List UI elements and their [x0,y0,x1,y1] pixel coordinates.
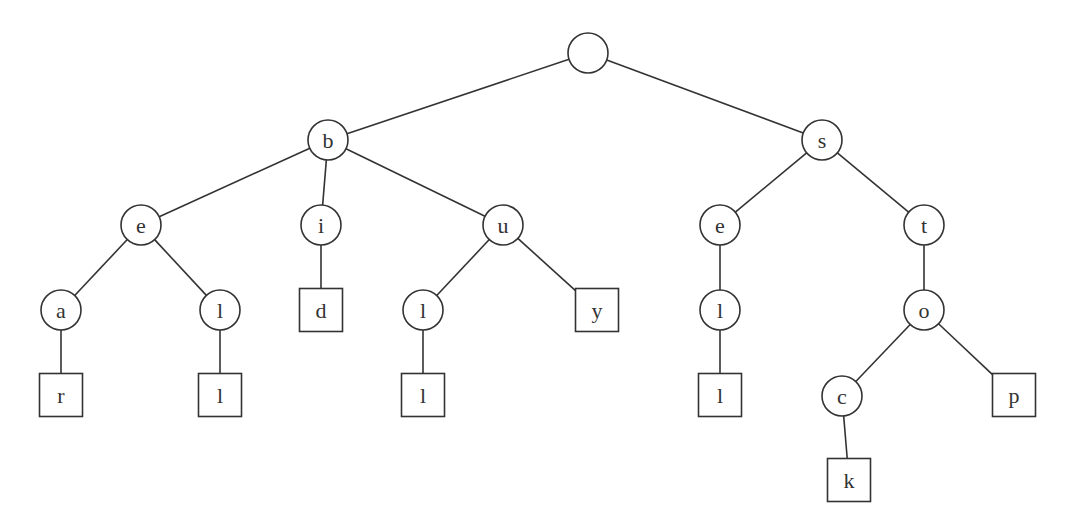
trie-node-be-a: a [41,290,81,330]
trie-node-bu-l: l [403,290,443,330]
trie-node-sto-c: c [822,376,862,416]
trie-diagram: bseiuetaldlylorlllcpk [0,0,1068,523]
trie-node-s: s [802,120,842,160]
trie-node-b-u: u [483,205,523,245]
trie-node-s-e: e [700,205,740,245]
edge-b-u-to-bu-l [437,240,490,296]
node-label: c [837,384,847,409]
trie-node-be-l: l [200,290,240,330]
node-label: l [217,298,223,323]
node-label: l [717,383,723,408]
edge-root-to-b [347,59,569,133]
leaf-node-bel-l: l [199,374,242,417]
node-label: r [57,383,65,408]
node-label: t [921,213,927,238]
node-label: k [844,468,855,493]
trie-node-s-t: t [904,205,944,245]
node-label: l [717,298,723,323]
leaf-node-sto-p: p [993,374,1036,417]
circle-node-shape [568,33,608,73]
leaf-node-bi-d: d [300,289,343,332]
edge-sto-c-to-stoc-k [844,416,848,459]
node-label: s [818,128,827,153]
node-label: d [316,298,327,323]
trie-node-b-i: i [301,205,341,245]
trie-node-st-o: o [904,290,944,330]
node-label: y [592,298,603,323]
node-label: a [56,298,66,323]
edge-b-to-b-u [346,149,485,217]
node-label: e [136,213,146,238]
node-label: p [1009,383,1020,408]
leaf-node-sel-l: l [699,374,742,417]
node-label: o [919,298,930,323]
edge-s-to-s-e [735,153,806,212]
edge-s-to-s-t [837,153,908,212]
edge-st-o-to-sto-c [856,324,910,381]
edge-b-u-to-bu-y [518,238,576,290]
node-label: e [715,213,725,238]
node-label: b [323,128,334,153]
node-label: l [420,383,426,408]
edge-b-e-to-be-a [75,240,128,296]
edge-b-to-b-e [159,148,310,216]
trie-node-se-l: l [700,290,740,330]
leaf-node-bu-y: y [576,289,619,332]
leaf-node-bea-r: r [40,374,83,417]
trie-node-b: b [308,120,348,160]
leaf-node-stoc-k: k [828,459,871,502]
edge-b-e-to-be-l [155,240,207,296]
nodes-layer: bseiuetaldlylorlllcpk [40,33,1036,502]
node-label: u [498,213,509,238]
node-label: i [318,213,324,238]
node-label: l [420,298,426,323]
edge-root-to-s [607,60,804,133]
trie-node-root [568,33,608,73]
node-label: l [217,383,223,408]
edge-b-to-b-i [323,160,327,205]
trie-node-b-e: e [121,205,161,245]
edge-st-o-to-sto-p [939,324,993,375]
leaf-node-bul-l: l [402,374,445,417]
